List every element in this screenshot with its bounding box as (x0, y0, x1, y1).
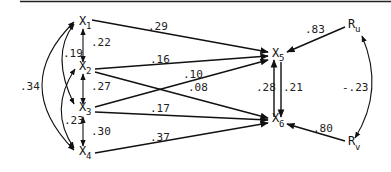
coef-rv-x6: .80 (313, 122, 333, 135)
svg-text:v: v (355, 142, 360, 152)
path-x1-x5 (92, 20, 268, 52)
coef-x1-x3: .19 (63, 47, 83, 60)
corr-x1-x4 (42, 22, 74, 150)
path-x4-x6 (95, 123, 268, 153)
svg-text:2: 2 (86, 66, 91, 76)
coef-x3-x6: .17 (150, 102, 170, 115)
coef-x2-x6: .08 (188, 81, 208, 94)
coef-x5-x6: .21 (283, 81, 303, 94)
svg-text:1: 1 (86, 21, 91, 31)
node-x2: X 2 (79, 59, 91, 76)
path-x3-x6 (95, 112, 268, 120)
svg-text:4: 4 (86, 151, 91, 161)
node-rv: R v (348, 134, 360, 152)
node-ru: R u (348, 17, 360, 34)
node-x1: X 1 (79, 14, 91, 31)
coef-x2-x3: .27 (91, 80, 111, 93)
coef-x1-x2: .22 (91, 36, 111, 49)
coef-x6-x5: .28 (256, 81, 276, 94)
svg-text:5: 5 (279, 53, 284, 63)
coef-x2-x5: .16 (150, 53, 170, 66)
coef-ru-x5: .83 (305, 23, 325, 36)
path-diagram: X 1 X 2 X 3 X 4 X 5 X 6 R u R v .29 .16 … (0, 0, 391, 172)
coef-x2-x4: .23 (64, 114, 84, 127)
coef-x4-x6: .37 (150, 131, 170, 144)
corr-x2-x4 (61, 69, 75, 148)
path-x2-x6 (95, 72, 268, 118)
coef-x3-x4: .30 (91, 125, 111, 138)
coef-x1-x5: .29 (148, 20, 168, 33)
coef-ru-rv: -.23 (342, 81, 369, 94)
node-x4: X 4 (79, 144, 91, 161)
svg-text:6: 6 (279, 119, 284, 129)
svg-text:u: u (355, 24, 360, 34)
coef-x1-x4: .34 (20, 80, 40, 93)
svg-text:3: 3 (86, 107, 91, 117)
node-x6: X 6 (272, 111, 284, 129)
coef-x3-x5: .10 (183, 68, 203, 81)
